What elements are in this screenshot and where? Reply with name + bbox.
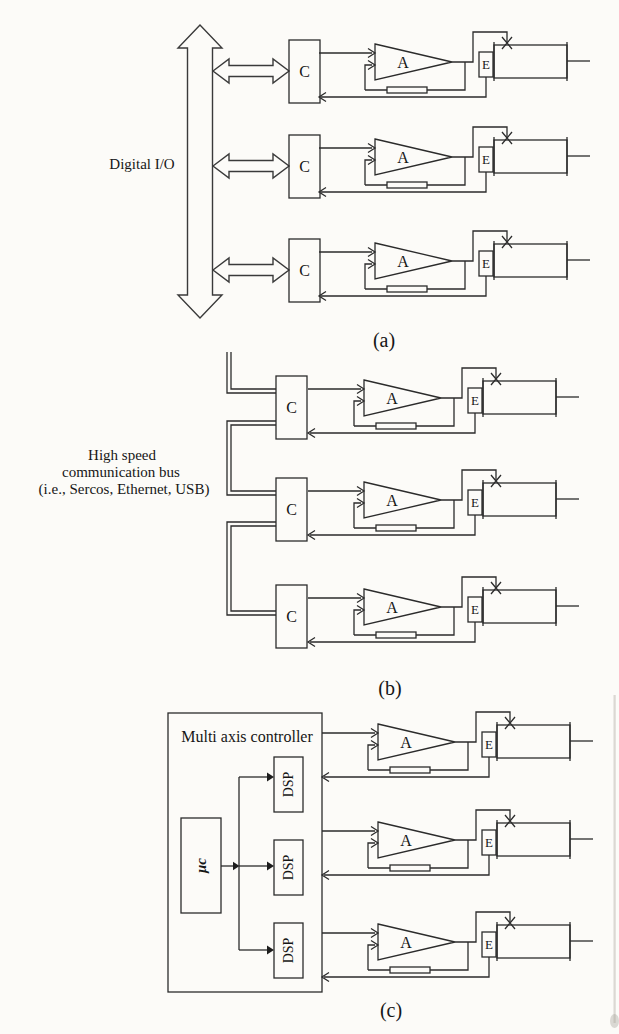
bus-label-line3: (i.e., Sercos, Ethernet, USB) [39,481,210,498]
filled-arrowhead-icon [267,773,274,782]
io-arrow-axis2 [213,154,289,178]
servo-axis-channel [322,810,593,880]
servo-axis-channel [319,127,590,197]
bus-label-line1: High speed [88,447,156,463]
caption-a: (a) [373,329,395,352]
axis2-controller [289,135,320,198]
servo-axis-channel [308,368,579,438]
io-arrow-axis3 [213,258,289,282]
caption-c: (c) [380,999,402,1022]
axis1-controller [289,40,320,103]
comm-bus-segment [227,421,276,495]
comm-bus-segment [231,526,276,611]
comm-bus-segment [231,425,276,491]
comm-bus-segment [227,352,276,393]
digital-io-label: Digital I/O [109,156,175,172]
scan-smudge-artifact [610,1014,619,1028]
axis2-controller [276,478,307,541]
scan-edge-artifact [614,695,616,1023]
servo-axis-channel [319,231,590,301]
scanned-figure-page: A E C DSP Digital I/O [0,0,619,1034]
servo-axis-channel [308,577,579,647]
panel-c: Multi axis controller μc (c) [168,712,593,1022]
panel-a: Digital I/O (a) [109,25,590,352]
dsp2 [274,840,303,895]
servo-axis-channel [319,32,590,102]
bus-label-line2: communication bus [62,464,180,480]
multi-axis-controller-title: Multi axis controller [181,728,313,745]
servo-axis-channel [308,470,579,540]
filled-arrowhead-icon [267,946,274,955]
microcontroller-label: μc [193,858,209,874]
servo-axis-channel [322,712,593,782]
io-arrow-axis1 [213,59,289,83]
axis3-controller [276,585,307,648]
axis3-controller [289,239,320,302]
servo-axis-channel [322,912,593,982]
comm-bus-segment [227,522,276,615]
caption-b: (b) [378,677,401,700]
filled-arrowhead-icon [267,862,274,871]
motor-control-architectures-figure: A E C DSP Digital I/O [0,0,619,1034]
axis1-controller [276,376,307,439]
dsp1 [274,757,303,812]
comm-bus-segment [231,352,276,389]
panel-b: High speed communication bus (i.e., Serc… [39,352,579,700]
dsp3 [274,923,303,978]
